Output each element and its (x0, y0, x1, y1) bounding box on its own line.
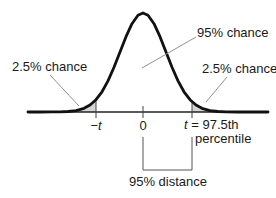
right-tail-shaded-region (192, 102, 268, 112)
right-tail-chance-label: 2.5% chance (202, 62, 276, 76)
center-chance-label: 95% chance (197, 26, 269, 40)
t-variable: t (98, 118, 102, 133)
distance-label: 95% distance (129, 175, 207, 189)
t-percentile-line2: percentile (184, 132, 251, 146)
normal-curve-diagram: 2.5% chance 95% chance 2.5% chance −t 0 … (0, 0, 276, 198)
zero-axis-label: 0 (139, 119, 146, 133)
minus-sign: − (90, 118, 98, 133)
leader-line-right-tail (206, 77, 227, 102)
t-percentile-line1: t = 97.5th (184, 118, 251, 132)
t-equals-value: = 97.5th (188, 117, 239, 132)
left-tail-chance-label: 2.5% chance (12, 60, 87, 74)
t-percentile-label: t = 97.5th percentile (184, 118, 251, 146)
neg-t-axis-label: −t (90, 119, 101, 133)
leader-line-left-tail (50, 75, 79, 106)
